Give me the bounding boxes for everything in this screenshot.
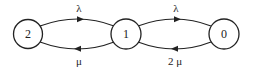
edge-label-2-to-1: λ [76, 2, 82, 14]
node-1: 1 [111, 19, 141, 49]
node-0-label: 0 [221, 27, 227, 41]
state-diagram: 2 1 0 λ μ λ 2 μ [0, 0, 253, 68]
arrowhead-1-to-0 [174, 16, 181, 22]
node-1-label: 1 [123, 27, 129, 41]
arrowhead-0-to-1 [171, 46, 178, 52]
node-2-label: 2 [25, 27, 31, 41]
arrowhead-1-to-2 [74, 46, 81, 52]
edge-label-1-to-0: λ [173, 2, 179, 14]
arrowhead-2-to-1 [77, 16, 84, 22]
node-0: 0 [209, 19, 239, 49]
edge-label-0-to-1: 2 μ [168, 55, 182, 67]
edge-label-1-to-2: μ [76, 55, 82, 67]
node-2: 2 [14, 20, 43, 49]
